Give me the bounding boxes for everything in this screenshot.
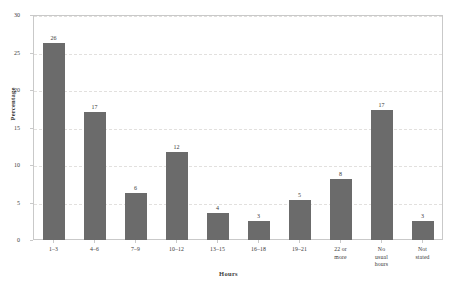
x-tick-label: 4–6 — [90, 246, 99, 254]
x-tick-mark — [422, 240, 423, 243]
bar-value-label: 6 — [116, 185, 156, 191]
x-tick: 1–3 — [33, 240, 74, 286]
x-tick-label: 22 or more — [334, 246, 347, 261]
bar — [166, 152, 188, 241]
bar — [84, 112, 106, 240]
bar — [371, 110, 393, 241]
x-tick: 22 or more — [320, 240, 361, 286]
x-tick-label: 19–21 — [292, 246, 307, 254]
x-tick-mark — [217, 240, 218, 243]
bar — [248, 221, 270, 240]
y-tick-label: 10 — [0, 162, 20, 168]
bar — [125, 193, 147, 240]
bar-item: 26 — [33, 15, 74, 240]
bar-item: 4 — [197, 15, 238, 240]
x-tick-label: 16–18 — [251, 246, 266, 254]
x-tick: 7–9 — [115, 240, 156, 286]
x-tick-mark — [299, 240, 300, 243]
bar — [412, 221, 434, 241]
bar-value-label: 17 — [75, 104, 115, 110]
bar — [289, 200, 311, 240]
x-tick: 10–12 — [156, 240, 197, 286]
x-tick-mark — [340, 240, 341, 243]
bar-item: 6 — [115, 15, 156, 240]
x-tick: 19–21 — [279, 240, 320, 286]
bar-value-label: 3 — [403, 213, 443, 219]
y-tick-label: 30 — [0, 12, 20, 18]
x-tick-label: 1–3 — [49, 246, 58, 254]
x-tick-mark — [258, 240, 259, 243]
bar-value-label: 17 — [362, 102, 402, 108]
bar-item: 8 — [320, 15, 361, 240]
x-tick: Not stated — [402, 240, 443, 286]
bar — [207, 213, 229, 240]
bar-item: 3 — [402, 15, 443, 240]
x-tick: 4–6 — [74, 240, 115, 286]
x-tick: No usual hours — [361, 240, 402, 286]
x-tick-mark — [135, 240, 136, 243]
x-tick-mark — [381, 240, 382, 243]
y-tick-label: 5 — [0, 200, 20, 206]
bar-item: 5 — [279, 15, 320, 240]
bar-series: 26176124358173 — [33, 15, 443, 240]
y-tick-label: 25 — [0, 50, 20, 56]
bar-value-label: 3 — [239, 213, 279, 219]
bar — [43, 43, 65, 240]
bar-item: 12 — [156, 15, 197, 240]
x-tick-label: No usual hours — [375, 246, 388, 269]
bar-value-label: 26 — [34, 35, 74, 41]
x-tick-label: 7–9 — [131, 246, 140, 254]
x-axis-title: Hours — [0, 270, 457, 277]
y-tick-label: 0 — [0, 237, 20, 243]
x-tick-mark — [176, 240, 177, 243]
bar-chart-figure: Percentage 051015202530 26176124358173 1… — [0, 0, 457, 291]
x-tick: 16–18 — [238, 240, 279, 286]
x-tick-label: Not stated — [415, 246, 429, 261]
bar-item: 17 — [74, 15, 115, 240]
bar-value-label: 5 — [280, 192, 320, 198]
bar-item: 3 — [238, 15, 279, 240]
x-tick-mark — [53, 240, 54, 243]
bar-item: 17 — [361, 15, 402, 240]
y-tick-label: 20 — [0, 87, 20, 93]
x-axis-tick-labels: 1–34–67–910–1213–1516–1819–2122 or moreN… — [33, 240, 443, 286]
x-tick-label: 10–12 — [169, 246, 184, 254]
x-tick-mark — [94, 240, 95, 243]
x-tick-label: 13–15 — [210, 246, 225, 254]
bar-value-label: 8 — [321, 171, 361, 177]
y-tick-label: 15 — [0, 125, 20, 131]
bar-value-label: 4 — [198, 205, 238, 211]
x-tick: 13–15 — [197, 240, 238, 286]
bar-value-label: 12 — [157, 144, 197, 150]
bar — [330, 179, 352, 240]
